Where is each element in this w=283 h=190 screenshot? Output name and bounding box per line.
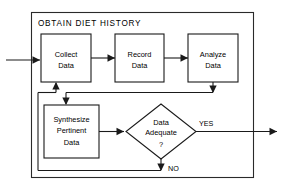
label-no: NO (168, 164, 179, 173)
node-synthesize-data-line3: Data (64, 138, 81, 147)
flowchart-diagram: OBTAIN DIET HISTORY Collect Data Record … (0, 0, 283, 190)
node-synthesize-data-line2: Pertinent (57, 126, 87, 135)
diagram-title: OBTAIN DIET HISTORY (38, 19, 141, 28)
label-yes: YES (199, 119, 214, 128)
node-decision-line1: Data (153, 118, 170, 127)
node-analyze-data-line2: Data (205, 61, 222, 70)
node-analyze-data-line1: Analyze (200, 50, 226, 59)
node-decision-line2: Adequate (145, 128, 177, 137)
arrowhead-yes-output (270, 128, 278, 135)
diagram-canvas: OBTAIN DIET HISTORY Collect Data Record … (0, 0, 283, 190)
node-collect-data-line2: Data (58, 61, 75, 70)
node-synthesize-data-line1: Synthesize (53, 115, 89, 124)
node-collect-data-line1: Collect (55, 50, 78, 59)
node-decision-line3: ? (159, 140, 163, 149)
node-record-data-line1: Record (128, 50, 152, 59)
node-record-data-line2: Data (132, 61, 149, 70)
